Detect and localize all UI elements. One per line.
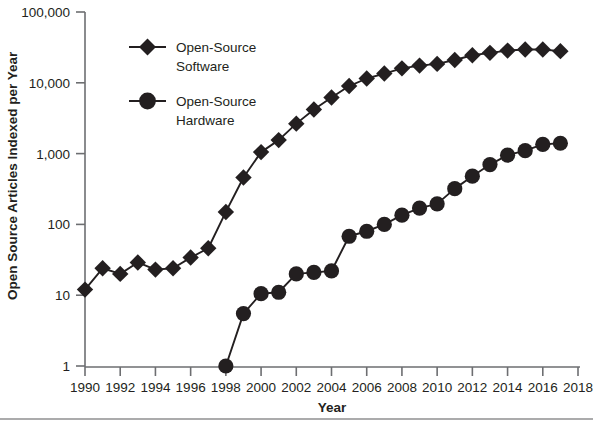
data-point-marker: [271, 285, 286, 300]
data-point-marker: [236, 306, 251, 321]
x-tick-label: 2014: [493, 380, 524, 395]
data-point-marker: [306, 265, 321, 280]
x-tick-label: 1996: [176, 380, 206, 395]
x-tick-label: 2002: [281, 380, 311, 395]
y-axis-title: Open Source Articles Indexed per Year: [5, 51, 20, 300]
x-tick-label: 2000: [246, 380, 276, 395]
y-tick-label: 10: [55, 288, 70, 303]
data-point-marker: [218, 358, 233, 373]
y-tick-label: 1,000: [36, 147, 70, 162]
data-point-marker: [465, 169, 480, 184]
x-tick-label: 1990: [70, 380, 100, 395]
data-point-marker: [412, 200, 427, 215]
data-point-marker: [535, 137, 550, 152]
x-axis-title: Year: [318, 400, 347, 415]
x-tick-label: 2018: [563, 380, 593, 395]
data-point-marker: [359, 224, 374, 239]
data-point-marker: [377, 217, 392, 232]
data-point-marker: [394, 208, 409, 223]
y-tick-label: 10,000: [29, 76, 70, 91]
x-tick-label: 2006: [352, 380, 382, 395]
legend-label-hardware-line2: Hardware: [176, 113, 235, 128]
legend-label-software-line2: Software: [176, 59, 229, 74]
x-tick-label: 1998: [211, 380, 241, 395]
x-tick-label: 1992: [105, 380, 135, 395]
legend-label-software-line1: Open-Source: [176, 40, 256, 55]
data-point-marker: [553, 136, 568, 151]
open-source-articles-line-chart: Open Source Articles Indexed per Year 10…: [0, 0, 593, 425]
y-tick-label: 1: [62, 359, 70, 374]
legend-label-hardware-line1: Open-Source: [176, 94, 256, 109]
data-point-marker: [342, 229, 357, 244]
data-point-marker: [518, 143, 533, 158]
x-tick-label: 2010: [422, 380, 452, 395]
data-point-marker: [482, 157, 497, 172]
y-tick-label: 100,000: [21, 5, 70, 20]
circle-icon: [139, 93, 156, 110]
chart-figure: Open Source Articles Indexed per Year 10…: [0, 0, 593, 425]
data-point-marker: [447, 181, 462, 196]
data-point-marker: [500, 148, 515, 163]
data-point-marker: [324, 263, 339, 278]
data-point-marker: [253, 286, 268, 301]
x-tick-label: 1994: [140, 380, 171, 395]
data-point-marker: [430, 196, 445, 211]
x-tick-label: 2016: [528, 380, 558, 395]
data-point-marker: [289, 266, 304, 281]
x-tick-label: 2008: [387, 380, 417, 395]
x-tick-label: 2012: [457, 380, 487, 395]
x-tick-label: 2004: [316, 380, 347, 395]
y-tick-label: 100: [47, 217, 70, 232]
chart-background: [0, 0, 593, 425]
